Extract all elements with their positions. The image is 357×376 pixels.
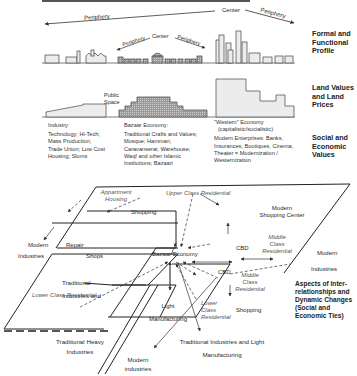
social-column-western: "Western" Economy (capitalistic/socialis… <box>214 119 293 164</box>
column-line: Institutions; Bazaari <box>124 160 197 167</box>
social-column-industry: Industry: Technology; Hi-Tech; Mass Prod… <box>48 122 105 160</box>
label-cbd-top: CBD <box>236 245 249 252</box>
label-trad-industries-light-mfg: Traditional Industries and Light Manufac… <box>172 335 272 361</box>
column-line: Traditional Crafts and Values; <box>124 131 197 138</box>
column-line: Mass Production; <box>48 138 105 145</box>
heading-social-values: Social and Economic Values <box>312 134 357 160</box>
label-industries-right: Industries <box>311 266 337 273</box>
label-modern-shopping-center: Modern Shopping Center <box>259 205 305 219</box>
label-lower-class-residential-mid: Lower Class Residential <box>201 300 231 321</box>
label-modern-right: Modern <box>317 250 337 257</box>
column-line: Waqf and other Islamic <box>124 153 197 160</box>
label-cbd-mid: CBD <box>218 269 231 276</box>
label-bazaar-economy: Bazaar Economy <box>152 251 198 258</box>
heading-formal-profile: Formal and Functional Profile <box>312 30 357 56</box>
column-title: Bazaar Economy: <box>124 122 197 129</box>
label-top-center: Center <box>222 7 240 14</box>
column-line: (capitalistic/socialistic) <box>214 126 293 133</box>
column-line: Westernization <box>214 157 293 164</box>
heading-land-values: Land Values and Land Prices <box>312 84 357 110</box>
column-title: Industry: <box>48 122 105 129</box>
label-bazaar-center: Center <box>152 33 169 40</box>
column-title: "Western" Economy <box>214 119 293 126</box>
column-line: Mosque; Hamman; <box>124 138 197 145</box>
label-shops: Shops <box>86 253 103 260</box>
label-lower-class-residential-left: Lower Class Residential <box>32 291 102 300</box>
label-shopping-top: Shopping <box>131 209 156 216</box>
label-middle-class-residential-mid: Middle Class Residential <box>235 272 265 293</box>
label-light-manufacturing: Light Manufacturing <box>146 300 190 326</box>
label-modern-industries: Modern industries <box>120 355 156 373</box>
column-line: Housing; Slums <box>48 153 105 160</box>
column-line: Modern Enterprises: Banks, <box>214 135 293 142</box>
social-column-bazaar: Bazaar Economy: Traditional Crafts and V… <box>124 122 197 167</box>
label-public-space: Public Space <box>104 92 122 106</box>
label-shopping-mid: Shopping <box>236 307 261 314</box>
column-line: Technology; Hi-Tech; <box>48 131 105 138</box>
land-values-profile <box>42 79 295 117</box>
label-traditional-heavy-industries: Traditional Heavy Industries <box>52 337 108 357</box>
column-line: Trade Union; Low Cost <box>48 146 105 153</box>
label-industries-left: Industries <box>18 253 44 260</box>
column-line: Insurances, Boutiques, Cinema, <box>214 143 293 150</box>
top-periphery-arrows <box>45 10 294 24</box>
label-repair: Repair <box>66 242 84 249</box>
label-upper-class-residential: Upper Class Residential <box>166 190 230 197</box>
label-apartment-housing: Appartment Housing <box>99 189 133 203</box>
heading-interrelationships: Aspects of Inter-relationships and Dynam… <box>295 280 357 320</box>
column-line: Theater = Modernization / <box>214 150 293 157</box>
column-line: Caravanserai; Warehouse; <box>124 146 197 153</box>
label-middle-class-residential-top: Middle Class Residential <box>262 234 292 255</box>
label-modern-left: Modern <box>28 242 48 249</box>
